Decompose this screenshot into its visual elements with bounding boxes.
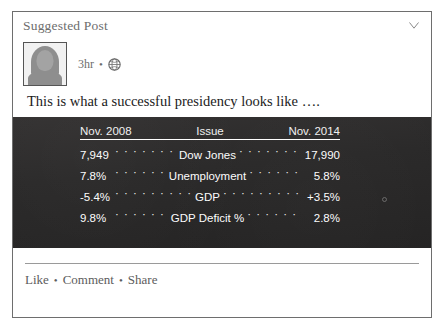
avatar-body <box>28 71 62 86</box>
table-row: 7,949 Dow Jones 17,990 <box>80 148 340 161</box>
row-value-left: 9.8% <box>80 212 113 224</box>
header-middle: Issue <box>158 125 262 137</box>
post-header: Suggested Post <box>13 12 431 39</box>
chevron-down-icon[interactable] <box>407 18 421 32</box>
table-row: -5.4% GDP +3.5% <box>80 190 340 203</box>
stats-table: Nov. 2008 Issue Nov. 2014 7,949 Dow Jone… <box>80 125 340 224</box>
suggested-post-label: Suggested Post <box>23 18 108 33</box>
post-timestamp[interactable]: 3hr <box>78 57 94 72</box>
globe-icon[interactable] <box>108 58 121 71</box>
footer-actions: Like • Comment • Share <box>25 272 157 288</box>
row-value-right: 17,990 <box>302 149 340 161</box>
footer-separator-1: • <box>54 274 58 286</box>
stats-table-header: Nov. 2008 Issue Nov. 2014 <box>80 125 340 140</box>
post-author-row: 3hr • <box>13 39 431 89</box>
meta-separator: • <box>99 59 103 70</box>
row-label: Dow Jones <box>178 149 237 161</box>
dot-leader-right <box>239 148 300 159</box>
footer-divider <box>25 263 419 264</box>
dot-leader-right <box>223 190 300 201</box>
row-value-left: 7,949 <box>80 149 113 161</box>
row-label: GDP <box>194 191 221 203</box>
dot-leader-left <box>115 190 192 201</box>
row-label: Unemployment <box>168 170 247 182</box>
row-value-right: +3.5% <box>302 191 340 203</box>
avatar-face <box>37 50 54 71</box>
header-left: Nov. 2008 <box>80 125 158 137</box>
table-row: 7.8% Unemployment 5.8% <box>80 169 340 182</box>
post-footer: Like • Comment • Share <box>13 248 431 317</box>
row-value-left: 7.8% <box>80 170 113 182</box>
dot-leader-left <box>115 148 176 159</box>
post-meta: 3hr • <box>78 57 121 72</box>
suggested-post-card: Suggested Post 3hr • <box>12 11 432 318</box>
like-button[interactable]: Like <box>25 272 49 288</box>
dot-leader-left <box>115 169 166 180</box>
table-row: 9.8% GDP Deficit % 2.8% <box>80 211 340 224</box>
dot-leader-right <box>249 169 300 180</box>
dot-leader-left <box>115 211 168 222</box>
post-text: This is what a successful presidency loo… <box>13 89 431 117</box>
row-label: GDP Deficit % <box>170 212 245 224</box>
dot-leader-right <box>247 211 300 222</box>
footer-separator-2: • <box>119 274 123 286</box>
comment-button[interactable]: Comment <box>63 272 114 288</box>
row-value-left: -5.4% <box>80 191 113 203</box>
avatar[interactable] <box>23 42 67 86</box>
share-button[interactable]: Share <box>128 272 158 288</box>
header-right: Nov. 2014 <box>262 125 340 137</box>
row-value-right: 2.8% <box>302 212 340 224</box>
row-value-right: 5.8% <box>302 170 340 182</box>
image-speck <box>382 197 387 202</box>
post-image-panel[interactable]: Nov. 2008 Issue Nov. 2014 7,949 Dow Jone… <box>13 117 431 248</box>
